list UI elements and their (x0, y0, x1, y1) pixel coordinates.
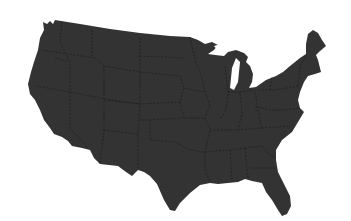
lake-superior-gap (214, 43, 232, 51)
us-map (0, 0, 351, 221)
us-land-silhouette (28, 20, 326, 216)
